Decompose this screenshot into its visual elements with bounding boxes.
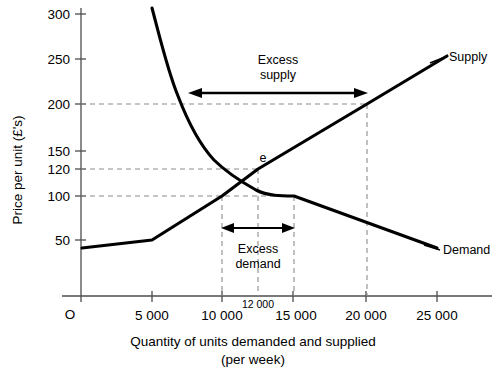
excess-demand-label-line2: demand [235, 257, 280, 271]
excess-supply-arrowhead-left [188, 88, 202, 98]
y-tick-label-200: 200 [47, 97, 70, 112]
y-tick-label-50: 50 [55, 233, 70, 248]
equilibrium-point-label: e [260, 151, 267, 165]
origin-label: O [65, 307, 76, 322]
excess-supply-label-line2: supply [260, 68, 297, 82]
y-tick-label-300: 300 [47, 7, 70, 22]
y-tick-label-120: 120 [47, 162, 70, 177]
y-tick-label-100: 100 [47, 189, 70, 204]
x-axis-title-line2: (per week) [221, 352, 285, 367]
x-tick-label-12000: 12 000 [242, 298, 274, 310]
excess-supply-label-line1: Excess [258, 53, 298, 67]
y-axis-title: Price per unit (£'s) [10, 115, 25, 224]
x-tick-label-10000: 10 000 [201, 308, 242, 323]
supply-curve-label: Supply [449, 50, 488, 64]
excess-supply-arrowhead-right [354, 88, 368, 98]
y-tick-label-250: 250 [47, 52, 70, 67]
x-tick-label-25000: 25 000 [416, 308, 457, 323]
x-tick-label-15000: 15 000 [275, 308, 316, 323]
supply-demand-chart: Price per unit (£'s) 300 250 200 150 120… [0, 0, 498, 370]
x-axis-title-line1: Quantity of units demanded and supplied [130, 334, 375, 349]
excess-demand-arrowhead-left [221, 223, 234, 233]
chart-canvas: Price per unit (£'s) 300 250 200 150 120… [0, 0, 498, 370]
demand-curve-label: Demand [443, 243, 490, 257]
x-tick-label-20000: 20 000 [345, 308, 386, 323]
excess-demand-arrowhead-right [282, 223, 295, 233]
excess-demand-annotation: Excess demand [221, 223, 295, 271]
y-tick-label-150: 150 [47, 144, 70, 159]
excess-demand-label-line1: Excess [238, 242, 278, 256]
x-tick-label-5000: 5 000 [135, 308, 169, 323]
excess-supply-annotation: Excess supply [188, 53, 368, 98]
